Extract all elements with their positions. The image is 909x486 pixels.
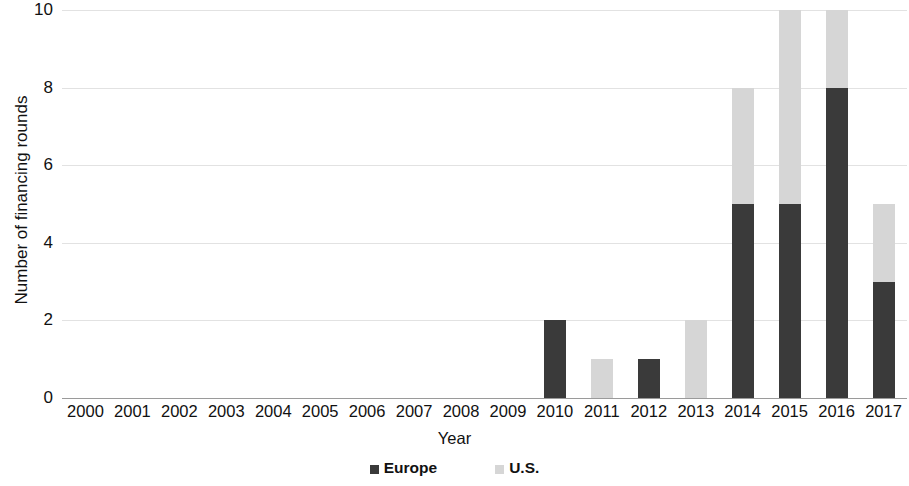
bars-layer (62, 10, 907, 398)
x-tick-label: 2009 (490, 402, 527, 421)
x-tick-label: 2014 (724, 402, 761, 421)
bar-group (766, 10, 813, 398)
bar-group (250, 10, 297, 398)
legend-label: U.S. (509, 459, 539, 477)
x-tick-label: 2011 (584, 402, 619, 421)
x-axis-title: Year (0, 429, 909, 448)
bar-segment[interactable] (732, 88, 754, 204)
bar-group (438, 10, 485, 398)
legend-swatch-icon (495, 465, 504, 474)
y-tick-label: 2 (44, 310, 53, 330)
bar-group (719, 10, 766, 398)
x-tick-label: 2002 (161, 402, 198, 421)
bar-stack[interactable] (826, 10, 848, 398)
x-tick-label: 2012 (630, 402, 667, 421)
x-tick-label: 2017 (865, 402, 902, 421)
bar-segment[interactable] (779, 204, 801, 398)
bar-segment[interactable] (826, 88, 848, 398)
bar-group (156, 10, 203, 398)
x-tick-label: 2000 (67, 402, 104, 421)
bar-group (344, 10, 391, 398)
bar-stack[interactable] (685, 320, 707, 398)
bar-group (860, 10, 907, 398)
bar-segment[interactable] (544, 320, 566, 398)
bar-segment[interactable] (873, 204, 895, 282)
y-axis-title: Number of financing rounds (12, 70, 32, 330)
y-tick-label: 10 (34, 0, 53, 20)
x-tick-label: 2007 (396, 402, 433, 421)
y-tick-label: 6 (44, 155, 53, 175)
bar-group (672, 10, 719, 398)
bar-group (203, 10, 250, 398)
bar-stack[interactable] (544, 320, 566, 398)
bar-stack[interactable] (638, 359, 660, 398)
gridline-0 (62, 398, 907, 399)
x-tick-label: 2013 (677, 402, 714, 421)
bar-group (391, 10, 438, 398)
x-tick-label: 2005 (302, 402, 339, 421)
x-tick-label: 2016 (818, 402, 855, 421)
legend-item[interactable]: Europe (370, 459, 437, 477)
stacked-bar-chart: Number of financing rounds 0246810 20002… (0, 0, 909, 486)
y-tick-label: 0 (44, 388, 53, 408)
x-tick-label: 2003 (208, 402, 245, 421)
x-tick-label: 2001 (114, 402, 151, 421)
legend-swatch-icon (370, 465, 379, 474)
bar-group (813, 10, 860, 398)
bar-group (62, 10, 109, 398)
bar-segment[interactable] (638, 359, 660, 398)
x-tick-label: 2008 (443, 402, 480, 421)
bar-segment[interactable] (873, 282, 895, 398)
bar-stack[interactable] (732, 88, 754, 398)
bar-group (297, 10, 344, 398)
y-tick-label: 4 (44, 233, 53, 253)
bar-group (109, 10, 156, 398)
bar-stack[interactable] (591, 359, 613, 398)
bar-segment[interactable] (732, 204, 754, 398)
bar-segment[interactable] (685, 320, 707, 398)
bar-group (578, 10, 625, 398)
plot-area: 0246810 (62, 10, 907, 398)
bar-stack[interactable] (779, 10, 801, 398)
bar-segment[interactable] (591, 359, 613, 398)
bar-segment[interactable] (826, 10, 848, 88)
bar-group (485, 10, 532, 398)
legend-label: Europe (384, 459, 437, 477)
x-tick-label: 2006 (349, 402, 386, 421)
x-tick-label: 2004 (255, 402, 292, 421)
x-tick-label: 2010 (537, 402, 574, 421)
bar-group (531, 10, 578, 398)
legend-item[interactable]: U.S. (495, 459, 539, 477)
y-tick-label: 8 (44, 78, 53, 98)
chart-legend: EuropeU.S. (0, 459, 909, 477)
bar-group (625, 10, 672, 398)
x-tick-label: 2015 (771, 402, 808, 421)
bar-stack[interactable] (873, 204, 895, 398)
bar-segment[interactable] (779, 10, 801, 204)
